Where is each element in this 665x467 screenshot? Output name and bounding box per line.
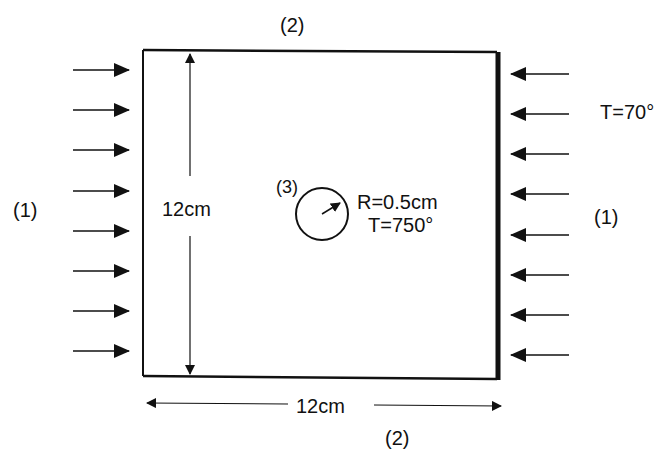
hole xyxy=(296,188,348,240)
ambient-temperature-label: T=70° xyxy=(600,102,654,122)
right-boundary-label: (1) xyxy=(594,207,618,227)
left-arrows xyxy=(73,70,129,351)
hole-temperature-label: T=750° xyxy=(368,215,433,235)
left-boundary-label: (1) xyxy=(13,200,37,220)
bottom-boundary-label: (2) xyxy=(385,428,409,448)
height-label: 12cm xyxy=(162,199,211,219)
width-label: 12cm xyxy=(296,396,345,416)
right-arrows xyxy=(511,74,569,355)
hole-radius-label: R=0.5cm xyxy=(357,192,438,212)
hole-boundary-label: (3) xyxy=(276,178,298,196)
top-boundary-label: (2) xyxy=(280,15,304,35)
